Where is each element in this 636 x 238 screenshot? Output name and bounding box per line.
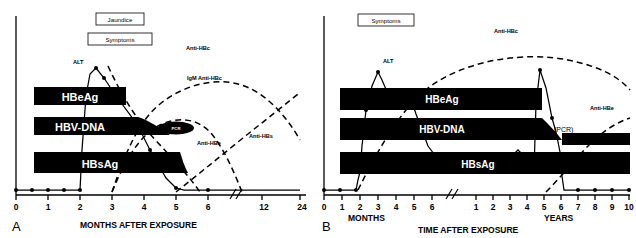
tick-a-2: 2 <box>78 202 83 212</box>
curve-label-anti-hbs-a: Anti-HBs <box>249 133 273 139</box>
panel-label-a: A <box>12 219 21 234</box>
curve-anti-hbs-a <box>176 94 298 192</box>
tick-b-m6: 6 <box>430 202 435 212</box>
bar-label-hbsag-a: HBsAg <box>82 158 119 170</box>
tick-b-y5: 5 <box>542 202 547 212</box>
tick-a-24: 24 <box>297 202 307 212</box>
pcr-label-b: (PCR) <box>554 126 573 134</box>
tick-b-m3: 3 <box>376 202 381 212</box>
tick-b-y8: 8 <box>593 202 598 212</box>
tick-a-0: 0 <box>14 202 19 212</box>
tick-b-y4: 4 <box>525 202 530 212</box>
curve-label-alt-b: ALT <box>383 58 394 64</box>
curve-label-anti-hbe-a: Anti-HBe <box>197 140 221 146</box>
axis-segment-years-b: YEARS <box>544 213 574 223</box>
tick-b-y3: 3 <box>508 202 513 212</box>
axis-break-b <box>446 189 458 199</box>
curve-label-alt-a: ALT <box>73 59 84 65</box>
tick-b-y10: 10 <box>624 202 634 212</box>
bar-label-hbeag-b: HBeAg <box>425 94 458 105</box>
tick-a-3: 3 <box>110 202 115 212</box>
axis-segment-months-b: MONTHS <box>348 213 385 223</box>
curve-label-igm-anti-hbc-a: IgM Anti-HBc <box>187 75 222 81</box>
bar-label-hbvdna-a: HBV-DNA <box>55 121 105 133</box>
tick-b-m4: 4 <box>394 202 399 212</box>
box-label-symptoms-b: Symptoms <box>371 17 400 24</box>
bar-hbsag-tail-a <box>180 152 188 173</box>
tick-b-y9: 9 <box>610 202 615 212</box>
tick-a-4: 4 <box>142 202 147 212</box>
tick-b-y2: 2 <box>491 202 496 212</box>
tick-b-m5: 5 <box>412 202 417 212</box>
tick-a-1: 1 <box>46 202 51 212</box>
tick-b-y7: 7 <box>576 202 581 212</box>
tick-b-m2: 2 <box>358 202 363 212</box>
panel-b-plot: 0 1 2 3 4 5 6 1 2 3 4 5 6 7 8 9 10 MONTH… <box>318 0 636 238</box>
panel-label-b: B <box>322 219 331 234</box>
bar-label-hbeag-a: HBeAg <box>62 91 99 103</box>
tick-a-12: 12 <box>259 202 269 212</box>
tick-a-5: 5 <box>174 202 179 212</box>
curve-label-anti-hbe-b: Anti-HBe <box>590 105 614 111</box>
panel-b: 0 1 2 3 4 5 6 1 2 3 4 5 6 7 8 9 10 MONTH… <box>318 0 636 238</box>
pcr-label-a: PCR <box>172 126 181 131</box>
x-ticks-b <box>324 195 629 200</box>
tick-b-m1: 1 <box>340 202 345 212</box>
curve-label-anti-hbc-a: Anti-HBc <box>186 45 210 51</box>
bar-label-hbvdna-b: HBV-DNA <box>419 124 465 135</box>
tick-a-6: 6 <box>206 202 211 212</box>
box-label-symptoms-a: Symptoms <box>105 36 134 43</box>
tick-b-y1: 1 <box>474 202 479 212</box>
x-axis-title-a: MONTHS AFTER EXPOSURE <box>80 220 197 230</box>
box-label-jaundice-a: Jaundice <box>108 16 133 23</box>
bar-label-hbsag-b: HBsAg <box>461 159 494 170</box>
x-axis-title-b: TIME AFTER EXPOSURE <box>418 225 519 235</box>
tick-b-y6: 6 <box>559 202 564 212</box>
bar-hbvdna-pcr-b <box>562 133 630 145</box>
panel-a: 0 1 2 3 4 5 6 12 24 PCR HBeAg HBV-DNA HB… <box>0 0 318 238</box>
curve-label-anti-hbc-b: Anti-HBc <box>494 28 518 34</box>
tick-b-m0: 0 <box>322 202 327 212</box>
x-ticks-a <box>16 195 300 200</box>
panel-a-plot: 0 1 2 3 4 5 6 12 24 PCR HBeAg HBV-DNA HB… <box>0 0 318 238</box>
